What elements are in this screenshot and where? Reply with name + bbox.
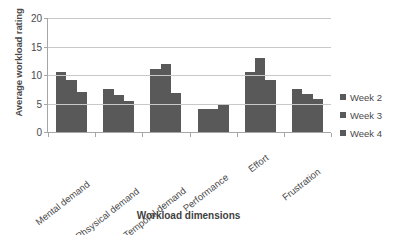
x-axis-tick-label-text: Frustration (280, 166, 323, 203)
legend-label: Week 2 (350, 92, 382, 103)
bar[interactable] (114, 95, 124, 132)
x-axis-tick-label-text: Effort (246, 152, 271, 175)
legend-item[interactable]: Week 3 (340, 106, 408, 124)
bar[interactable] (255, 58, 265, 132)
gridline (48, 47, 331, 48)
bar[interactable] (77, 92, 87, 132)
square-swatch-icon (340, 94, 346, 100)
bar-chart: Average workload rating 05101520 Mental … (0, 0, 408, 235)
bar[interactable] (124, 101, 134, 132)
bar[interactable] (302, 94, 312, 132)
y-axis-tick-label: 10 (31, 70, 42, 81)
bar[interactable] (171, 93, 181, 132)
square-swatch-icon (340, 130, 346, 136)
x-axis-tick-label: Effort (259, 138, 282, 149)
y-axis-tick-labels: 05101520 (22, 0, 42, 235)
bar[interactable] (150, 69, 160, 132)
y-axis-tick-mark (44, 18, 48, 19)
legend-label: Week 3 (350, 110, 382, 121)
y-axis-tick-mark (44, 47, 48, 48)
square-swatch-icon (340, 112, 346, 118)
gridline (48, 18, 331, 19)
y-axis-tick-label: 15 (31, 41, 42, 52)
bar[interactable] (198, 109, 208, 132)
y-axis-tick-label: 0 (36, 127, 42, 138)
x-axis-tick-labels: Mental demandPhsysical demandTemporal de… (47, 132, 330, 202)
bar[interactable] (56, 72, 66, 132)
chart-legend: Week 2Week 3Week 4 (340, 88, 408, 142)
bar[interactable] (208, 109, 218, 132)
legend-label: Week 4 (350, 128, 382, 139)
bar[interactable] (103, 89, 113, 132)
bar[interactable] (292, 89, 302, 132)
y-axis-tick-label: 20 (31, 13, 42, 24)
bar[interactable] (161, 64, 171, 132)
plot-area (47, 18, 331, 133)
bar[interactable] (265, 80, 275, 132)
gridline (48, 75, 331, 76)
y-axis-tick-mark (44, 75, 48, 76)
x-axis-tick-mark (331, 133, 332, 137)
legend-item[interactable]: Week 2 (340, 88, 408, 106)
y-axis-tick-mark (44, 104, 48, 105)
bar[interactable] (66, 80, 76, 132)
bar[interactable] (245, 72, 255, 132)
x-axis-title: Workload dimensions (47, 210, 330, 221)
gridline (48, 104, 331, 105)
y-axis-tick-label: 5 (36, 98, 42, 109)
legend-item[interactable]: Week 4 (340, 124, 408, 142)
bar[interactable] (218, 105, 228, 132)
x-axis-tick-label-text: Performance (181, 171, 231, 213)
